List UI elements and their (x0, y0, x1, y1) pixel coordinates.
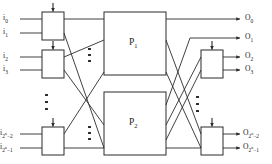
input-switch-second[interactable] (42, 41, 64, 78)
output-switch-upper[interactable] (201, 41, 223, 78)
figure-canvas: i0 i1 i2 i3 i2n−2 i2n−1 O0 O1 O2 O3 O2n−… (0, 0, 272, 164)
left-interconnect-wires (64, 19, 104, 148)
block-label-p2: P2 (129, 118, 138, 129)
ellipsis-left-inputs (45, 94, 48, 110)
input-label-i2n-2: i2n−2 (0, 129, 13, 139)
output-wires (223, 57, 240, 148)
input-switch-top[interactable] (42, 3, 64, 40)
input-switch-bottom[interactable] (42, 118, 64, 155)
output-switch-lower[interactable] (201, 118, 223, 155)
output-label-O0: O0 (245, 14, 253, 24)
ellipsis-center-upper (88, 48, 91, 62)
input-label-i2n-1: i2n−1 (0, 143, 13, 153)
input-wires (20, 19, 42, 148)
ellipsis-center-lower (88, 126, 91, 140)
output-label-O2n-1: O2n−1 (243, 143, 259, 153)
input-label-i2: i2 (3, 52, 8, 62)
input-label-i3: i3 (3, 65, 8, 75)
ellipsis-right-outputs (196, 96, 199, 112)
input-label-i1: i1 (3, 28, 8, 38)
output-label-O2n-2: O2n−2 (243, 129, 259, 139)
output-label-O1: O1 (245, 33, 253, 43)
block-label-p1: P1 (129, 38, 138, 49)
input-label-i0: i0 (3, 14, 8, 24)
output-label-O2: O2 (245, 52, 253, 62)
network-diagram-svg (0, 0, 272, 164)
output-label-O3: O3 (245, 65, 253, 75)
